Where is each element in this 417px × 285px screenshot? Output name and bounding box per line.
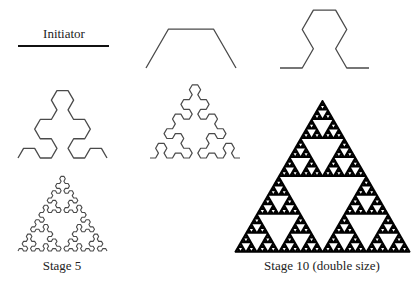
stage-10-label: Stage 10 (double size) <box>264 259 380 272</box>
stage-4-curve <box>150 85 240 158</box>
fractal-canvas <box>0 0 417 285</box>
stage-10-curve <box>235 101 410 252</box>
stage-10-path <box>235 101 410 252</box>
stage-5-path <box>18 176 107 251</box>
initiator-label: Initiator <box>43 27 85 40</box>
stage-3-path <box>18 91 107 158</box>
stage-4-path <box>150 85 240 158</box>
stage-2-curve <box>280 10 369 68</box>
stage-1-path <box>146 29 236 68</box>
stage-2-path <box>280 10 369 68</box>
stage-5-label: Stage 5 <box>43 259 82 272</box>
stage-1-curve <box>146 29 236 68</box>
stage-3-curve <box>18 91 107 158</box>
stage-5-curve <box>18 176 107 251</box>
